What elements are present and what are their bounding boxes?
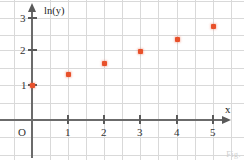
x-tick-label-4: 4 (174, 127, 180, 138)
figure-caption-artifact: Fig. (226, 151, 241, 159)
semilog-scatter-chart: ln(y) x O 3 2 1 1 2 3 4 5 Fig. (0, 0, 244, 160)
chart-labels: ln(y) x O 3 2 1 1 2 3 4 5 (0, 0, 244, 160)
y-axis-label: ln(y) (44, 6, 64, 17)
x-tick-label-2: 2 (101, 127, 107, 138)
y-tick-label-1: 1 (21, 80, 27, 91)
x-tick-label-3: 3 (137, 127, 143, 138)
x-tick-label-5: 5 (210, 127, 216, 138)
x-tick-label-1: 1 (65, 127, 71, 138)
y-tick-label-2: 2 (20, 45, 26, 56)
x-axis-label: x (225, 104, 231, 115)
origin-label: O (18, 127, 26, 138)
y-tick-label-3: 3 (20, 13, 26, 24)
